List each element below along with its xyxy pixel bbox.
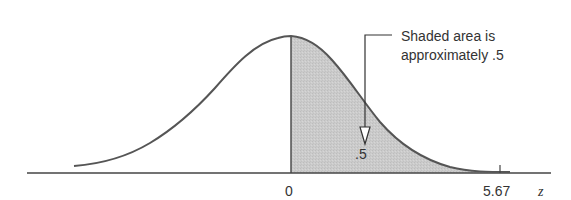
tick-label-0: 0: [285, 183, 293, 199]
normal-curve-diagram: Shaded area is approximately .5 .5 0 5.6…: [0, 0, 571, 200]
annotation-line-2: approximately .5: [401, 47, 504, 63]
annotation-line-1: Shaded area is: [401, 28, 495, 44]
tick-label-5-67: 5.67: [483, 183, 510, 199]
area-label: .5: [355, 146, 367, 162]
axis-label-z: z: [537, 184, 544, 199]
